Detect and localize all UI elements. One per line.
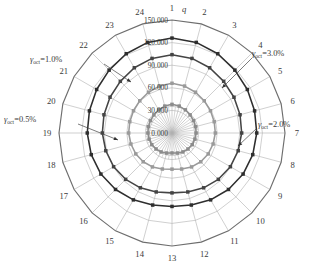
series-marker-3-23 <box>124 52 128 56</box>
series-marker-3-3 <box>216 52 220 56</box>
radial-axis-variable: q <box>182 4 187 14</box>
series-marker-2-12 <box>186 190 190 194</box>
series-marker-0-11 <box>181 150 185 154</box>
series-marker-3-10 <box>227 188 231 192</box>
series-marker-3-8 <box>251 153 255 157</box>
series-marker-3-19 <box>86 131 90 135</box>
series-marker-0-10 <box>186 147 190 151</box>
series-marker-0-3 <box>184 108 188 112</box>
series-marker-0-19 <box>146 131 150 135</box>
series-marker-1-15 <box>151 165 155 169</box>
series-marker-2-9 <box>229 165 233 169</box>
series-marker-2-2 <box>190 57 194 61</box>
series-marker-0-2 <box>177 104 181 108</box>
series-marker-0-7 <box>194 131 198 135</box>
series-marker-0-9 <box>190 143 194 147</box>
direction-label-11: 11 <box>230 236 238 246</box>
series-marker-1-9 <box>206 152 210 156</box>
grid-spoke-11 <box>172 133 229 231</box>
radial-tick-30.000: 30.000 <box>148 106 169 115</box>
series-marker-0-5 <box>192 119 196 123</box>
series-marker-2-6 <box>238 113 242 117</box>
direction-label-12: 12 <box>200 249 209 259</box>
polar-chart: 0.00030.00060.00090.000120.000150.000123… <box>0 0 332 268</box>
direction-label-13: 13 <box>168 253 177 263</box>
series-marker-0-8 <box>193 137 197 141</box>
series-marker-2-8 <box>236 149 240 153</box>
series-marker-2-15 <box>139 186 143 190</box>
series-marker-0-17 <box>150 143 154 147</box>
series-marker-2-16 <box>124 178 128 182</box>
polar-chart-canvas: 0.00030.00060.00090.000120.000150.000123… <box>0 0 332 268</box>
series-marker-2-21 <box>108 95 112 99</box>
anno-3-0: γoct=3.0% <box>222 49 284 88</box>
series-marker-0-4 <box>188 113 192 117</box>
series-marker-1-6 <box>212 120 216 124</box>
series-marker-1-8 <box>211 142 215 146</box>
radial-tick-90.000: 90.000 <box>148 61 169 70</box>
series-marker-2-20 <box>102 113 106 117</box>
series-marker-2-4 <box>222 80 226 84</box>
direction-label-15: 15 <box>105 236 114 246</box>
radial-tick-labels: 0.00030.00060.00090.000120.000150.000 <box>144 16 168 138</box>
series-marker-3-20 <box>88 109 92 113</box>
series-marker-1-17 <box>134 152 138 156</box>
series-marker-3-22 <box>107 68 111 72</box>
grid-spoke-3 <box>172 35 229 133</box>
anno-2-0-label: γoct=2.0% <box>258 120 290 130</box>
series-marker-1-2 <box>183 84 187 88</box>
series-marker-2-13 <box>170 191 174 195</box>
series-marker-0-6 <box>194 125 198 129</box>
direction-label-9: 9 <box>278 191 282 201</box>
series-marker-1-19 <box>127 131 130 135</box>
series-marker-3-13 <box>170 205 174 209</box>
series-marker-2-14 <box>154 190 158 194</box>
anno-3-0-label: γoct=3.0% <box>252 49 284 59</box>
series-marker-2-10 <box>217 178 221 182</box>
series-marker-1-5 <box>209 109 213 113</box>
anno-1-0-label: γoct=1.0% <box>30 55 62 65</box>
series-marker-2-18 <box>104 149 108 153</box>
series-marker-1-16 <box>141 160 145 164</box>
direction-label-14: 14 <box>135 249 144 259</box>
series-marker-0-21 <box>149 119 153 123</box>
series-marker-1-13 <box>170 167 174 171</box>
radial-tick-150.000: 150.000 <box>144 16 168 25</box>
direction-label-21: 21 <box>59 66 68 76</box>
direction-label-2: 2 <box>202 7 206 17</box>
series-marker-3-21 <box>95 88 99 92</box>
direction-label-17: 17 <box>59 191 68 201</box>
anno-0-5-arrow-head <box>113 137 118 140</box>
series-marker-2-22 <box>119 80 123 84</box>
series-marker-0-15 <box>159 150 163 154</box>
direction-label-19: 19 <box>43 128 52 138</box>
series-marker-3-16 <box>114 188 118 192</box>
series-marker-2-5 <box>232 95 236 99</box>
series-marker-3-9 <box>241 172 245 176</box>
radial-tick-0.000: 0.000 <box>151 129 168 138</box>
radial-tick-120.000: 120.000 <box>144 38 168 47</box>
series-marker-0-18 <box>147 137 151 141</box>
series-marker-3-17 <box>99 172 103 176</box>
series-marker-2-11 <box>202 186 206 190</box>
series-marker-1-7 <box>214 131 218 135</box>
direction-label-10: 10 <box>256 216 265 226</box>
series-marker-3-1 <box>170 36 174 40</box>
series-marker-3-5 <box>246 88 250 92</box>
direction-label-16: 16 <box>79 216 88 226</box>
series-marker-1-22 <box>138 99 142 103</box>
series-marker-2-7 <box>240 131 244 135</box>
anno-0-5-label: γoct=0.5% <box>4 115 36 125</box>
series-marker-1-18 <box>129 142 133 146</box>
series-marker-3-12 <box>190 203 194 207</box>
direction-label-7: 7 <box>295 128 300 138</box>
series-marker-2-1 <box>170 53 174 57</box>
direction-label-23: 23 <box>105 20 114 30</box>
series-marker-1-3 <box>194 90 198 94</box>
series-marker-0-16 <box>154 147 158 151</box>
direction-label-18: 18 <box>47 160 56 170</box>
series-marker-3-2 <box>195 41 199 45</box>
direction-label-22: 22 <box>79 40 88 50</box>
direction-label-6: 6 <box>291 96 296 106</box>
direction-label-5: 5 <box>278 66 282 76</box>
